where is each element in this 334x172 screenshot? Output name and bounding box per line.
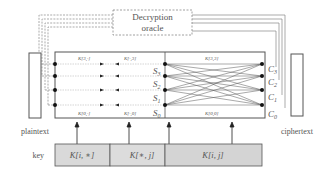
key-segment-col-label: K[∗, j] xyxy=(129,150,155,160)
svg-text:C0: C0 xyxy=(268,109,277,120)
key-label: key xyxy=(32,151,44,160)
ciphertext-label: ciphertext xyxy=(281,127,314,136)
plaintext-box xyxy=(29,53,41,118)
svg-text:C1: C1 xyxy=(268,92,277,103)
plaintext-label: plaintext xyxy=(21,127,50,136)
key-segment-cell-label: K[i, j] xyxy=(201,150,223,160)
key-segment-row-label: K[i, ∗] xyxy=(69,150,95,160)
svg-text:C2: C2 xyxy=(268,77,277,88)
oracle-label-line2: oracle xyxy=(142,23,164,33)
ciphertext-box xyxy=(291,54,303,116)
cipher-diagram: Decryption oracle xyxy=(0,0,334,172)
oracle-label-line1: Decryption xyxy=(132,12,173,22)
key-arrows xyxy=(75,122,234,144)
output-labels: C3 C2 C1 C0 xyxy=(268,64,277,120)
key-bar: K[i, ∗] K[∗, j] K[i, j] xyxy=(55,144,262,166)
decryption-oracle: Decryption oracle xyxy=(113,10,192,35)
